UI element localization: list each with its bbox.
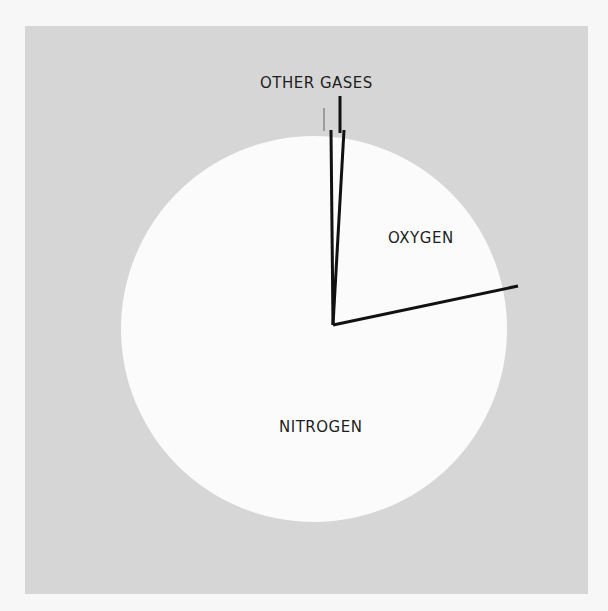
nitrogen-label: NITROGEN — [279, 418, 362, 436]
other-gases-label: OTHER GASES — [260, 74, 373, 92]
pie-circle — [121, 136, 507, 522]
other-gases-left-boundary — [331, 130, 333, 325]
oxygen-label: OXYGEN — [388, 229, 454, 247]
